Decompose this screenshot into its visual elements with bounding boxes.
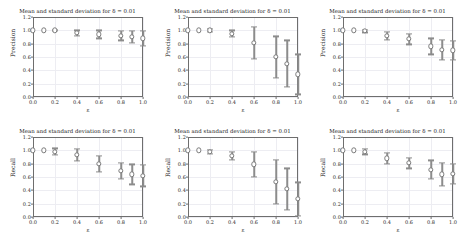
data-point-marker [251,162,256,167]
y-tick-label: 0.2 [23,81,31,87]
x-tick-label: 0.0 [29,99,37,105]
gridline-vertical [409,17,410,97]
x-tick-label: 0.6 [95,219,103,225]
data-point-marker [129,34,134,39]
gridline-horizontal [343,177,453,178]
data-point-marker [384,156,389,161]
axis-top [343,17,453,18]
y-tick-label: 0.6 [333,54,341,60]
data-point-marker [251,40,256,45]
gridline-horizontal [343,57,453,58]
chart-panel-precision-panel-1: Mean and standard deviation for δ = 0.01… [0,0,155,120]
error-bar-cap [284,86,290,87]
error-bar-cap [52,154,58,155]
x-tick-label: 0.0 [339,99,347,105]
x-tick-label: 0.6 [405,219,413,225]
plot-area: 0.00.20.40.60.81.01.20.00.20.40.60.81.0 [343,137,453,217]
error-bar-cap [406,168,412,169]
x-axis-label: ε [343,107,453,113]
error-bar-cap [251,151,257,152]
x-tick-label: 0.0 [29,219,37,225]
error-bar-cap [129,42,135,43]
data-point-marker [140,173,145,178]
y-tick-label: 0.4 [178,187,186,193]
error-bar-cap [295,54,301,55]
gridline-horizontal [188,217,298,218]
error-bar-cap [384,152,390,153]
error-bar-cap [129,184,135,185]
x-tick-label: 1.0 [294,219,302,225]
y-tick-label: 1.2 [23,14,31,20]
y-tick-label: 0.4 [23,67,31,73]
axis-bottom [343,216,453,217]
data-point-marker [96,32,101,37]
y-tick-label: 0.8 [333,161,341,167]
error-bar-cap [251,176,257,177]
x-tick-label: 0.2 [51,99,59,105]
plot-area: 0.00.20.40.60.81.01.20.00.20.40.60.81.0 [188,17,298,97]
y-axis-label: Recall [319,158,326,177]
data-point-marker [351,148,356,153]
gridline-horizontal [343,217,453,218]
x-tick-label: 1.0 [449,99,457,105]
y-tick-label: 0.2 [23,201,31,207]
y-tick-label: 0.8 [333,41,341,47]
x-tick-label: 0.6 [250,99,258,105]
gridline-horizontal [188,190,298,191]
axis-top [188,137,298,138]
x-axis-label: ε [188,107,298,113]
chart-panel-recall-panel-3: Mean and standard deviation for δ = 0.01… [310,120,465,240]
x-tick-label: 0.8 [117,99,125,105]
data-point-marker [450,48,455,53]
error-bar-cap [96,171,102,172]
gridline-vertical [99,137,100,217]
data-point-marker [30,28,35,33]
data-point-marker [229,153,234,158]
gridline-horizontal [33,57,143,58]
error-bar-cap [384,163,390,164]
error-bar-cap [140,45,146,46]
gridline-horizontal [343,204,453,205]
x-tick-label: 0.2 [361,99,369,105]
data-point-marker [96,161,101,166]
gridline-vertical [431,17,432,97]
x-tick-label: 0.4 [228,219,236,225]
gridline-horizontal [33,204,143,205]
y-tick-label: 0.4 [23,187,31,193]
gridline-horizontal [188,57,298,58]
gridline-horizontal [343,70,453,71]
gridline-horizontal [188,44,298,45]
data-point-marker [118,168,123,173]
gridline-horizontal [188,164,298,165]
axis-top [343,137,453,138]
data-point-marker [406,160,411,165]
error-bar-cap [251,58,257,59]
axis-top [33,137,143,138]
y-tick-label: 0.2 [178,81,186,87]
x-tick-label: 0.4 [73,99,81,105]
data-point-marker [351,28,356,33]
data-point-marker [295,72,300,77]
y-tick-label: 1.2 [333,14,341,20]
gridline-horizontal [188,97,298,98]
error-bar-cap [406,157,412,158]
x-tick-label: 1.0 [449,219,457,225]
data-point-marker [406,36,411,41]
y-tick-label: 0.6 [23,54,31,60]
chart-panel-precision-panel-3: Mean and standard deviation for δ = 0.01… [310,0,465,120]
y-tick-label: 0.8 [178,161,186,167]
y-tick-label: 0.6 [333,174,341,180]
gridline-vertical [409,137,410,217]
plot-area: 0.00.20.40.60.81.01.20.00.20.40.60.81.0 [33,137,143,217]
x-tick-label: 0.8 [427,99,435,105]
axis-bottom [188,216,298,217]
gridline-horizontal [188,84,298,85]
gridline-horizontal [33,84,143,85]
error-bar-cap [118,30,124,31]
axis-bottom [343,96,453,97]
gridline-horizontal [33,30,143,31]
plot-area: 0.00.20.40.60.81.01.20.00.20.40.60.81.0 [188,137,298,217]
data-point-marker [41,28,46,33]
x-tick-label: 1.0 [294,99,302,105]
data-point-marker [428,44,433,49]
